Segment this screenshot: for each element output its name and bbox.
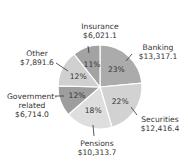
pie-percent-label: 12% [69, 91, 86, 100]
label-other-value: $7,891.6 [16, 58, 58, 67]
pie-percent-label: 23% [108, 65, 125, 74]
label-banking: Banking $13,317.1 [128, 43, 188, 61]
pie-percent-label: 12% [70, 72, 87, 81]
label-securities: Securities $12,416.4 [134, 115, 186, 133]
label-pensions: Pensions $10,313.7 [66, 139, 128, 157]
label-insurance-value: $6,021.1 [66, 31, 134, 40]
label-banking-name: Banking [128, 43, 188, 52]
label-government: Government- related $6,714.0 [4, 92, 60, 119]
label-securities-name: Securities [134, 115, 186, 124]
pie-percent-label: 11% [84, 60, 101, 69]
label-other: Other $7,891.6 [16, 49, 58, 67]
label-securities-value: $12,416.4 [134, 124, 186, 133]
label-pensions-name: Pensions [66, 139, 128, 148]
label-government-name2: related [4, 101, 60, 110]
label-insurance: Insurance $6,021.1 [66, 22, 134, 40]
label-pensions-value: $10,313.7 [66, 148, 128, 157]
label-government-name1: Government- [4, 92, 60, 101]
label-banking-value: $13,317.1 [128, 52, 188, 61]
label-other-name: Other [16, 49, 58, 58]
pie-percent-label: 22% [112, 97, 129, 106]
label-insurance-name: Insurance [66, 22, 134, 31]
label-government-value: $6,714.0 [4, 110, 60, 119]
pie-percent-label: 18% [85, 106, 102, 115]
